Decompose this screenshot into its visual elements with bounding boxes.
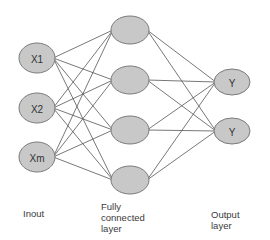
edge-h1-y1 bbox=[147, 30, 216, 82]
hidden-layer-label-line: layer bbox=[101, 223, 145, 234]
hidden-node-h3 bbox=[111, 116, 149, 144]
network-nodes: X1X2XmYY bbox=[19, 16, 250, 194]
output-node-y2: Y bbox=[214, 118, 250, 144]
input-node-xm: Xm bbox=[19, 142, 55, 172]
node-label: X2 bbox=[31, 104, 44, 115]
output-layer-label: Output layer bbox=[211, 209, 240, 231]
input-node-x2: X2 bbox=[19, 93, 55, 123]
hidden-node-h4 bbox=[111, 166, 149, 194]
output-layer-label-line: Output bbox=[211, 209, 240, 220]
node-label: Y bbox=[229, 127, 236, 138]
node-ellipse bbox=[111, 116, 149, 144]
node-label: X1 bbox=[31, 54, 44, 65]
connection-edges bbox=[53, 30, 216, 180]
input-node-x1: X1 bbox=[19, 43, 55, 73]
node-ellipse bbox=[111, 66, 149, 94]
hidden-layer-label: Fully connected layer bbox=[101, 201, 145, 234]
edge-x1-h1 bbox=[53, 30, 113, 58]
hidden-node-h2 bbox=[111, 66, 149, 94]
input-layer-label-line: Inout bbox=[23, 208, 44, 219]
edge-xm-h3 bbox=[53, 130, 113, 157]
edge-h2-y2 bbox=[147, 80, 216, 131]
hidden-layer-label-line: connected bbox=[101, 212, 145, 223]
input-layer-label: Inout bbox=[23, 208, 44, 219]
hidden-node-h1 bbox=[111, 16, 149, 44]
output-node-y1: Y bbox=[214, 69, 250, 95]
output-layer-label-line: layer bbox=[211, 220, 240, 231]
node-label: Xm bbox=[30, 153, 45, 164]
edge-h3-y1 bbox=[147, 82, 216, 130]
node-label: Y bbox=[229, 78, 236, 89]
edge-xm-h4 bbox=[53, 157, 113, 180]
node-ellipse bbox=[111, 16, 149, 44]
edge-h4-y2 bbox=[147, 131, 216, 180]
edge-xm-h1 bbox=[53, 30, 113, 157]
node-ellipse bbox=[111, 166, 149, 194]
hidden-layer-label-line: Fully bbox=[101, 201, 145, 212]
